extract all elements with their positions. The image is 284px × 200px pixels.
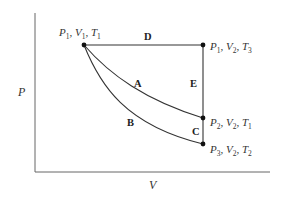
state-label-1: P1, V1, T1 [58,26,101,41]
y-axis-label: P [17,85,26,99]
path-label-d: D [144,31,152,42]
path-label-b: B [127,117,134,128]
diagram-svg: P V D E A B C P1, V1, T1 P1, V2, T3 P2, … [0,0,284,200]
state-label-4: P3, V2, T2 [209,143,252,158]
path-a-curve [84,45,203,118]
state-point-3 [201,116,206,121]
path-label-e: E [190,78,197,89]
path-b-curve [84,45,203,144]
pv-diagram: P V D E A B C P1, V1, T1 P1, V2, T3 P2, … [0,0,284,200]
state-label-2: P1, V2, T3 [209,40,252,55]
path-label-a: A [134,78,142,89]
state-point-1 [82,43,87,48]
path-label-c: C [192,126,200,137]
state-point-2 [201,43,206,48]
x-axis-label: V [149,178,158,192]
state-label-3: P2, V2, T1 [209,116,252,131]
state-point-4 [201,142,206,147]
